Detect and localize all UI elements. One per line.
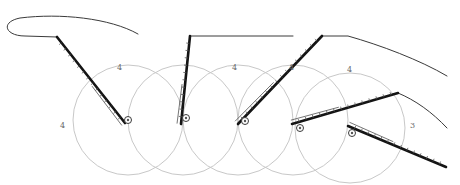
tick-label: 4 [232, 64, 237, 72]
outline-stroke [322, 36, 447, 76]
pivot-center-icon [185, 117, 187, 119]
lever-rotation-sketch [0, 0, 460, 185]
tick-label: 4 [60, 122, 65, 130]
pivot-center-icon [299, 127, 301, 129]
outline-stroke [7, 16, 138, 37]
lever-arm [292, 93, 398, 124]
sketch-canvas: Pencil sketch: lever rotating through fi… [0, 0, 460, 185]
lever-arm [348, 126, 446, 167]
tendon-line [92, 86, 122, 125]
lever-arm [238, 36, 322, 124]
tick-label: 3 [410, 122, 415, 130]
tick-label: 4 [347, 66, 352, 74]
lever-arm [57, 37, 125, 123]
outline-stroke [398, 93, 447, 128]
tick-label: 4 [117, 64, 122, 72]
pivot-center-icon [244, 120, 246, 122]
tendon-line [350, 122, 394, 141]
pivot-center-icon [127, 119, 129, 121]
tick-label: 4 [289, 64, 294, 72]
pivot-center-icon [351, 132, 353, 134]
